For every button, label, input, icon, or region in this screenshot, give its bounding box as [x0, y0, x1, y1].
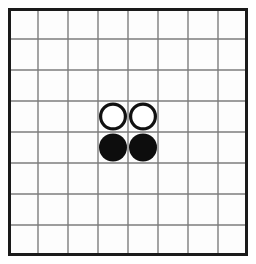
board-cell-a2[interactable] — [8, 39, 38, 70]
board-cell-f4[interactable] — [158, 101, 188, 132]
board-cell-f6[interactable] — [158, 163, 188, 194]
board-cell-e6[interactable] — [128, 163, 158, 194]
board-cell-c1[interactable] — [68, 8, 98, 39]
board-cell-b2[interactable] — [38, 39, 68, 70]
othello-board[interactable] — [8, 8, 248, 256]
board-cell-e8[interactable] — [128, 225, 158, 256]
board-cell-a5[interactable] — [8, 132, 38, 163]
board-cell-e2[interactable] — [128, 39, 158, 70]
board-cell-h8[interactable] — [218, 225, 248, 256]
board-cell-g2[interactable] — [188, 39, 218, 70]
board-cell-f1[interactable] — [158, 8, 188, 39]
board-cell-f2[interactable] — [158, 39, 188, 70]
board-cell-g3[interactable] — [188, 70, 218, 101]
board-cell-e5[interactable] — [128, 132, 158, 163]
board-cell-d8[interactable] — [98, 225, 128, 256]
board-cell-g8[interactable] — [188, 225, 218, 256]
board-cell-f8[interactable] — [158, 225, 188, 256]
board-cell-h5[interactable] — [218, 132, 248, 163]
board-cell-c2[interactable] — [68, 39, 98, 70]
board-cell-b1[interactable] — [38, 8, 68, 39]
board-cell-d5[interactable] — [98, 132, 128, 163]
board-cell-a6[interactable] — [8, 163, 38, 194]
board-cell-h4[interactable] — [218, 101, 248, 132]
board-cell-h2[interactable] — [218, 39, 248, 70]
board-cell-d7[interactable] — [98, 194, 128, 225]
board-cell-f7[interactable] — [158, 194, 188, 225]
board-cell-a1[interactable] — [8, 8, 38, 39]
board-cell-b3[interactable] — [38, 70, 68, 101]
board-cell-h1[interactable] — [218, 8, 248, 39]
board-cell-h3[interactable] — [218, 70, 248, 101]
board-cell-g6[interactable] — [188, 163, 218, 194]
board-cell-h6[interactable] — [218, 163, 248, 194]
board-cell-g1[interactable] — [188, 8, 218, 39]
board-cell-c8[interactable] — [68, 225, 98, 256]
board-cell-a8[interactable] — [8, 225, 38, 256]
board-cell-g5[interactable] — [188, 132, 218, 163]
board-cell-g7[interactable] — [188, 194, 218, 225]
board-cell-e7[interactable] — [128, 194, 158, 225]
board-cell-g4[interactable] — [188, 101, 218, 132]
board-cell-d4[interactable] — [98, 101, 128, 132]
board-cell-d2[interactable] — [98, 39, 128, 70]
board-cell-f5[interactable] — [158, 132, 188, 163]
board-cell-f3[interactable] — [158, 70, 188, 101]
board-cell-a4[interactable] — [8, 101, 38, 132]
board-cell-b7[interactable] — [38, 194, 68, 225]
board-cell-c6[interactable] — [68, 163, 98, 194]
board-cell-a3[interactable] — [8, 70, 38, 101]
board-cell-c4[interactable] — [68, 101, 98, 132]
board-cell-b6[interactable] — [38, 163, 68, 194]
board-cell-b5[interactable] — [38, 132, 68, 163]
board-cell-a7[interactable] — [8, 194, 38, 225]
board-cell-d1[interactable] — [98, 8, 128, 39]
board-cell-c3[interactable] — [68, 70, 98, 101]
board-cell-e1[interactable] — [128, 8, 158, 39]
board-cell-e4[interactable] — [128, 101, 158, 132]
board-figure — [0, 0, 256, 264]
board-cell-d3[interactable] — [98, 70, 128, 101]
board-cell-b8[interactable] — [38, 225, 68, 256]
board-cell-h7[interactable] — [218, 194, 248, 225]
board-cell-d6[interactable] — [98, 163, 128, 194]
board-cell-c5[interactable] — [68, 132, 98, 163]
board-cell-c7[interactable] — [68, 194, 98, 225]
board-cell-b4[interactable] — [38, 101, 68, 132]
board-cell-e3[interactable] — [128, 70, 158, 101]
